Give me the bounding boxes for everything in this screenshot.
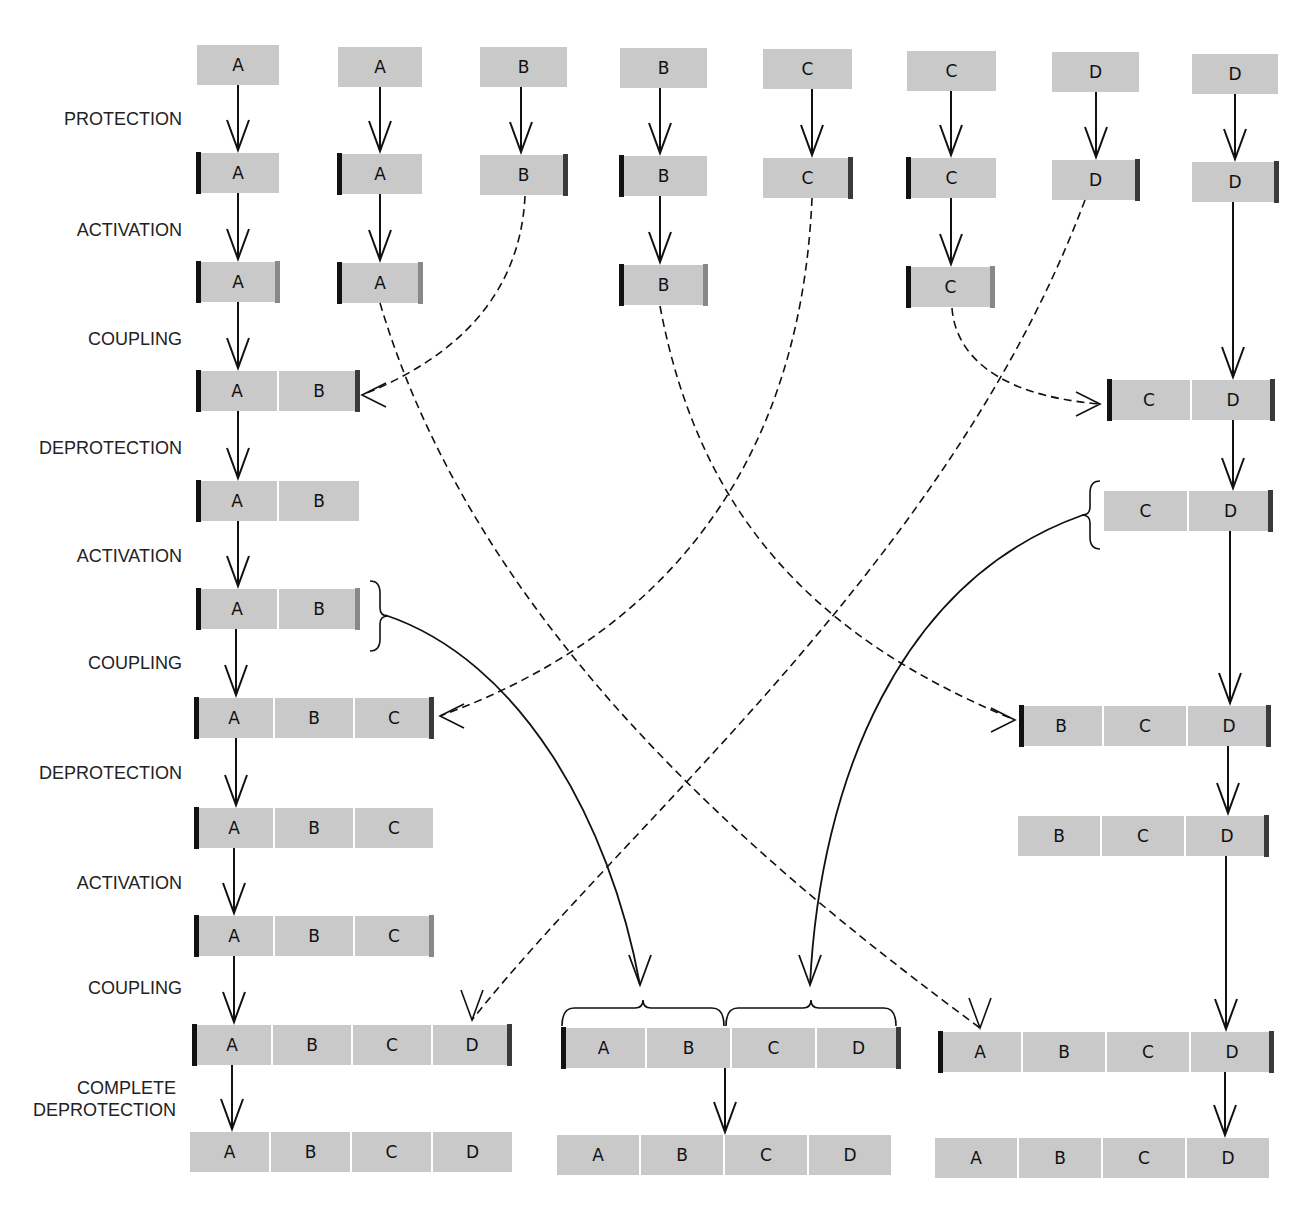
arrowhead-icon xyxy=(461,990,483,1020)
arrowhead-icon xyxy=(440,704,464,728)
solid-arrows xyxy=(221,85,1246,1135)
coupling-path xyxy=(660,306,1015,720)
brace xyxy=(1082,481,1100,549)
coupling-path xyxy=(440,198,812,716)
braces xyxy=(370,481,1100,1026)
coupling-path xyxy=(362,196,525,395)
fragment-coupling-curves xyxy=(385,515,1083,985)
fragment-path xyxy=(385,615,640,985)
fragment-path xyxy=(810,515,1083,985)
coupling-path xyxy=(952,308,1100,404)
coupling-path xyxy=(380,303,980,1028)
dashed-coupling-curves xyxy=(362,196,1100,1028)
brace xyxy=(562,1000,724,1026)
arrowhead-icon xyxy=(969,998,991,1028)
brace xyxy=(726,1000,896,1026)
brace xyxy=(370,581,388,651)
coupling-path xyxy=(472,200,1085,1020)
diagram-connectors xyxy=(0,0,1315,1206)
